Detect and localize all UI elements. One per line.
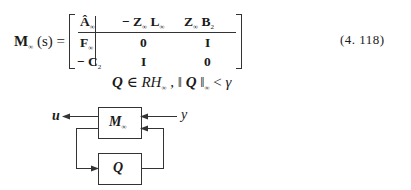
m-label-sub: ∞: [121, 123, 126, 131]
m-feedback-arrowhead-icon: [140, 125, 148, 132]
y-arrowhead-icon: [140, 113, 148, 120]
m-block-label: M∞: [109, 114, 126, 130]
u-arrowhead-icon: [62, 113, 70, 120]
u-signal-line: [66, 116, 98, 117]
loop-left-top: [76, 128, 98, 129]
loop-right-vertical: [163, 128, 164, 169]
q-input-arrowhead-icon: [91, 165, 99, 172]
output-label-u: u: [52, 108, 60, 124]
q-block-label: Q: [113, 160, 123, 176]
input-label-y: y: [181, 107, 187, 123]
m-label-text: M: [109, 114, 121, 129]
loop-right-bottom: [141, 168, 164, 169]
block-diagram: u y M∞ Q: [0, 0, 411, 190]
loop-left-vertical: [76, 128, 77, 169]
